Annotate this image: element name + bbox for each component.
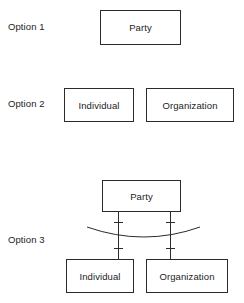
option-1-label: Option 1 <box>8 21 45 32</box>
exclusive-arc <box>87 227 200 237</box>
tick-mark-party-individual-upper <box>114 222 123 223</box>
entity-box-organization-option3[interactable]: Organization <box>146 259 228 293</box>
entity-box-party-option3[interactable]: Party <box>102 180 181 212</box>
tick-mark-party-individual-lower <box>114 248 123 249</box>
connector-line-party-organization <box>170 212 171 260</box>
exclusive-arc-layer <box>0 0 244 303</box>
connector-line-party-individual <box>118 212 119 260</box>
tick-mark-party-organization-lower <box>166 248 175 249</box>
option-2-label: Option 2 <box>8 98 45 109</box>
option-3-label: Option 3 <box>8 234 45 245</box>
entity-box-party-option1[interactable]: Party <box>100 10 181 45</box>
entity-box-organization-option2[interactable]: Organization <box>146 88 234 122</box>
tick-mark-party-organization-upper <box>166 222 175 223</box>
diagram-canvas: Option 1 Party Option 2 Individual Organ… <box>0 0 244 303</box>
entity-box-individual-option3[interactable]: Individual <box>66 259 134 293</box>
entity-box-individual-option2[interactable]: Individual <box>64 88 134 122</box>
